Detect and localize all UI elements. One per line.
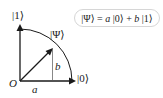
vertical-axis-label: |1⟩ <box>12 10 24 21</box>
equation-plus: + <box>124 13 135 24</box>
horizontal-axis-arrow-icon <box>69 78 76 85</box>
b-component-label: b <box>55 61 61 72</box>
equation-ket0: |0⟩ <box>110 13 123 24</box>
state-equation-box: |Ψ⟩ = a |0⟩ + b |1⟩ <box>74 9 160 27</box>
state-vector <box>20 52 49 81</box>
horizontal-axis-label: |0⟩ <box>77 73 89 84</box>
equation-equals: = <box>95 13 106 24</box>
state-vector-label: |Ψ⟩ <box>50 29 65 40</box>
origin-label: O <box>9 78 17 89</box>
equation-ket1: |1⟩ <box>139 13 152 24</box>
vertical-axis-arrow-icon <box>17 24 24 31</box>
equation-lhs: |Ψ⟩ <box>81 13 94 24</box>
a-component-label: a <box>32 84 38 95</box>
